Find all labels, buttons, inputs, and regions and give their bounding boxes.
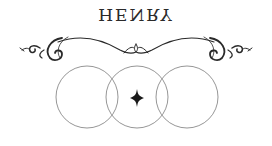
decoration-canvas bbox=[0, 0, 272, 146]
flourish-divider-icon bbox=[20, 37, 252, 60]
left-ring bbox=[56, 66, 118, 128]
right-ring bbox=[156, 66, 218, 128]
four-point-star-icon bbox=[130, 89, 144, 107]
